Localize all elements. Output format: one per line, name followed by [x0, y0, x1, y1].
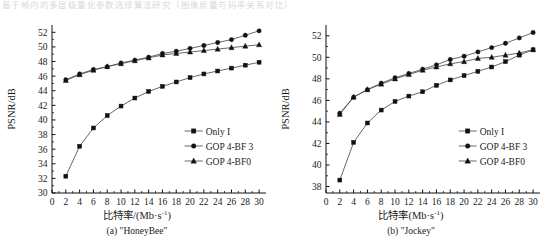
- x-tick-label: 26: [227, 197, 237, 207]
- figure-caption-b: (b) "Jockey": [274, 226, 548, 236]
- data-point: [435, 83, 439, 87]
- data-point: [78, 144, 82, 148]
- page-header-text: 基于帧内的多层级量化参数选择算法研究（图像质量与码率关系对比）: [0, 0, 549, 11]
- data-point: [188, 76, 192, 80]
- data-point: [476, 69, 480, 73]
- legend-label: GOP 4-BF 3: [480, 142, 528, 152]
- data-point: [393, 100, 397, 104]
- x-tick-label: 0: [50, 197, 55, 207]
- data-point: [352, 140, 356, 144]
- y-tick-label: 36: [38, 145, 48, 155]
- x-tick-label: 20: [459, 197, 469, 207]
- x-tick-label: 20: [185, 197, 195, 207]
- x-tick-label: 6: [91, 197, 96, 207]
- data-point: [407, 94, 411, 98]
- y-tick-label: 38: [312, 182, 322, 192]
- legend-label: GOP 4-BF0: [480, 157, 526, 167]
- x-axis-label-a: 比特率/(Mb·s-1): [0, 207, 274, 222]
- data-point: [462, 54, 466, 58]
- y-tick-label: 50: [312, 53, 322, 63]
- data-point: [216, 69, 220, 73]
- x-tick-label: 16: [158, 197, 168, 207]
- chart-legend: Only IGOP 4-BF 3GOP 4-BF0: [185, 127, 254, 167]
- x-tick-label: 26: [501, 197, 511, 207]
- data-point: [133, 96, 137, 100]
- figure-caption-a: (a) "HoneyBee": [0, 226, 274, 236]
- y-tick-label: 40: [312, 160, 322, 170]
- data-point: [243, 63, 247, 67]
- data-point: [489, 45, 493, 49]
- y-tick-label: 46: [312, 96, 322, 106]
- x-axis-label-a-tail: ): [167, 210, 171, 221]
- legend-marker-triangle: [465, 158, 471, 163]
- data-point: [338, 178, 342, 182]
- x-tick-label: 12: [130, 197, 140, 207]
- y-tick-label: 30: [38, 188, 48, 198]
- y-tick-label: 38: [38, 130, 48, 140]
- x-tick-label: 14: [418, 197, 428, 207]
- data-point: [503, 41, 507, 45]
- y-tick-label: 50: [38, 42, 48, 52]
- chart-canvas-b: 3840424446485052024681012141618202224262…: [274, 11, 548, 211]
- data-point: [379, 108, 383, 112]
- legend-label: GOP 4-BF0: [206, 157, 252, 167]
- x-tick-label: 4: [77, 197, 82, 207]
- x-tick-label: 22: [199, 197, 209, 207]
- y-tick-label: 42: [38, 101, 48, 111]
- data-point: [257, 60, 261, 64]
- data-point: [202, 72, 206, 76]
- y-tick-label: 34: [38, 159, 48, 169]
- x-tick-label: 2: [337, 197, 342, 207]
- data-point: [174, 80, 178, 84]
- data-point: [215, 40, 219, 44]
- chart-figure-honeybee: 3032343638404244464850520246810121416182…: [0, 11, 274, 249]
- data-point: [243, 33, 247, 37]
- x-tick-label: 10: [116, 197, 126, 207]
- x-tick-label: 4: [351, 197, 356, 207]
- legend-label: Only I: [206, 127, 231, 137]
- x-tick-label: 2: [63, 197, 68, 207]
- plot-area-a: 3032343638404244464850520246810121416182…: [0, 11, 274, 211]
- x-tick-label: 24: [213, 197, 223, 207]
- data-point: [161, 84, 165, 88]
- x-tick-label: 14: [144, 197, 154, 207]
- data-point: [531, 30, 535, 34]
- legend-marker-square: [466, 129, 470, 133]
- data-point: [257, 29, 261, 33]
- series-gop-4-bf0: [63, 42, 261, 83]
- legend-label: GOP 4-BF 3: [206, 142, 254, 152]
- y-tick-label: 48: [312, 74, 322, 84]
- y-tick-label: 52: [312, 31, 322, 41]
- data-point: [119, 104, 123, 108]
- data-point: [504, 60, 508, 64]
- data-point: [147, 90, 151, 94]
- chart-figure-jockey: 3840424446485052024681012141618202224262…: [274, 11, 548, 249]
- x-tick-label: 18: [446, 197, 456, 207]
- series-gop-4-bf0: [337, 47, 535, 116]
- x-tick-label: 28: [515, 197, 525, 207]
- chart-legend: Only IGOP 4-BF 3GOP 4-BF0: [459, 127, 528, 167]
- y-tick-label: 44: [312, 117, 322, 127]
- x-axis-label-a-main: 比特率/(Mb·s: [103, 210, 162, 221]
- x-tick-label: 22: [473, 197, 483, 207]
- x-tick-label: 28: [241, 197, 251, 207]
- x-tick-label: 6: [365, 197, 370, 207]
- data-point: [91, 126, 95, 130]
- plot-area-b: 3840424446485052024681012141618202224262…: [274, 11, 548, 211]
- x-axis-label-b: 比特率(Mb·s-1): [274, 207, 548, 222]
- legend-label: Only I: [480, 127, 505, 137]
- x-tick-label: 8: [105, 197, 110, 207]
- x-tick-label: 16: [432, 197, 442, 207]
- x-axis-label-b-main: 比特率(Mb·s: [378, 210, 434, 221]
- x-tick-label: 8: [379, 197, 384, 207]
- y-tick-label: 48: [38, 57, 48, 67]
- y-axis-title: PSNR/dB: [6, 88, 17, 129]
- y-tick-label: 40: [38, 115, 48, 125]
- y-axis-title: PSNR/dB: [280, 88, 291, 129]
- y-tick-label: 52: [38, 28, 48, 38]
- x-tick-label: 12: [404, 197, 414, 207]
- y-tick-label: 42: [312, 139, 322, 149]
- legend-marker-triangle: [191, 158, 197, 163]
- x-tick-label: 10: [390, 197, 400, 207]
- x-tick-label: 30: [528, 197, 538, 207]
